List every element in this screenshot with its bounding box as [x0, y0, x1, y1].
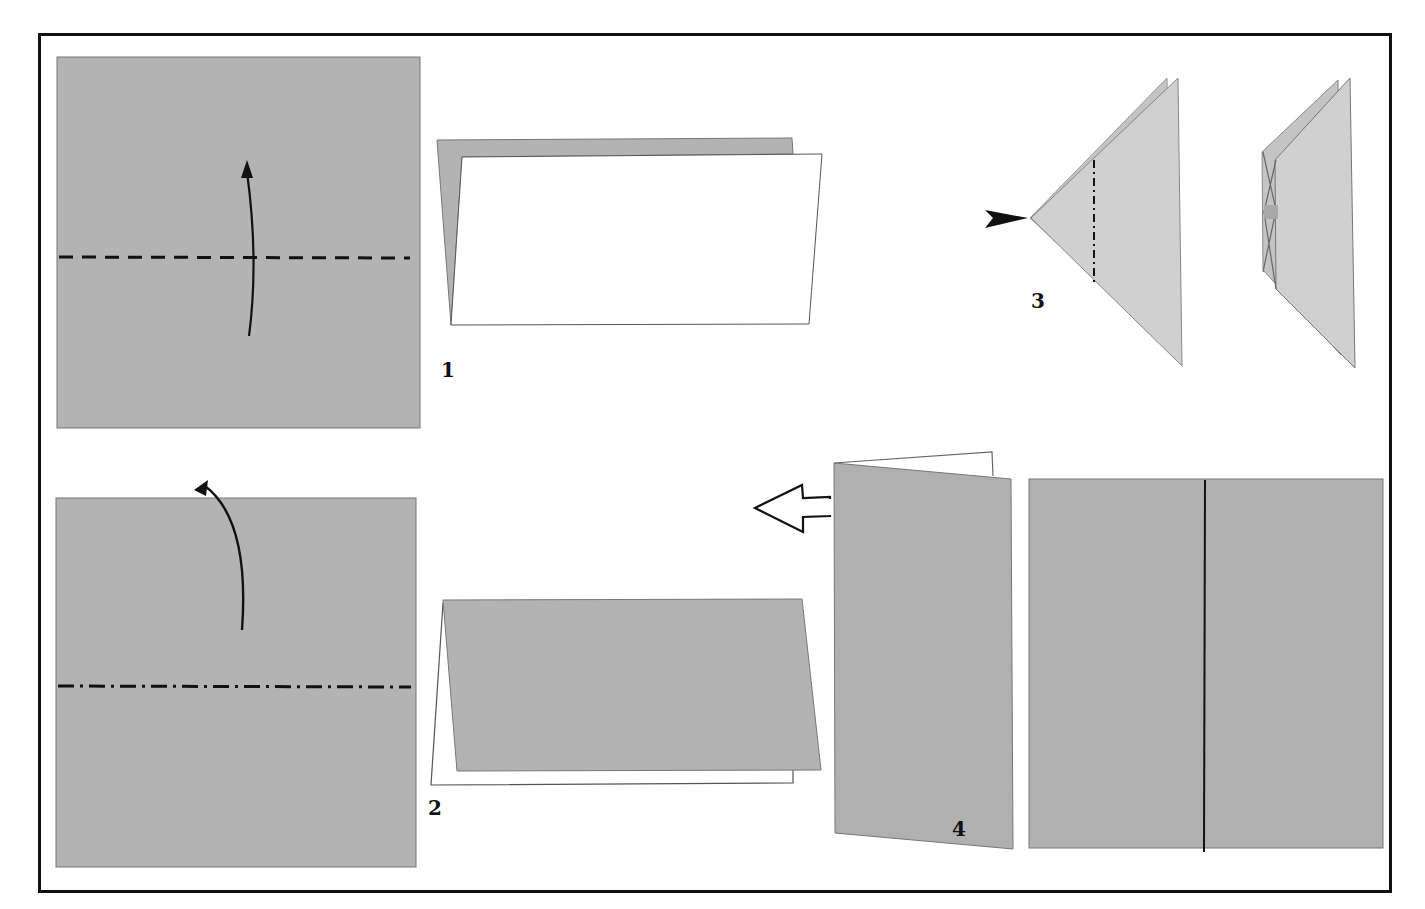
step-number-3: 3	[1031, 291, 1045, 311]
step2-result	[431, 599, 821, 785]
center-crease-line	[1204, 480, 1205, 852]
step1-result	[437, 138, 822, 325]
push-in-arrow-icon	[985, 210, 1028, 228]
step-number-2: 2	[428, 798, 442, 818]
step1-square	[57, 57, 420, 428]
step4-folded	[834, 452, 1013, 849]
step3-result	[1262, 78, 1355, 368]
origami-diagram	[0, 0, 1425, 909]
hollow-left-arrow-icon	[755, 485, 830, 532]
step4-result	[1029, 479, 1383, 852]
step-number-1: 1	[441, 360, 455, 380]
step2-square	[56, 480, 416, 867]
step3-triangle	[985, 78, 1182, 366]
step-number-4: 4	[952, 819, 966, 839]
